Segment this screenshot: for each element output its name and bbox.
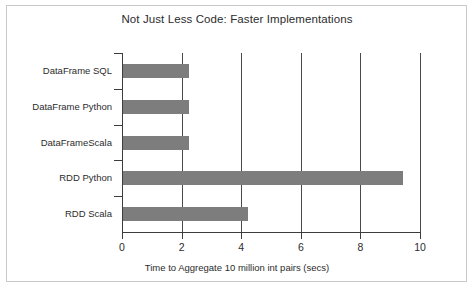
category-label-dataframe-python: DataFrame Python (2, 101, 112, 112)
bar-dataframe-sql (123, 64, 189, 78)
x-tick-0 (122, 233, 123, 239)
x-tick-8 (360, 233, 361, 239)
x-tick-2 (182, 233, 183, 239)
gridline-10 (420, 53, 421, 232)
y-tick-0 (114, 53, 122, 54)
bar-rdd-scala (123, 207, 248, 221)
y-tick-2 (114, 125, 122, 126)
figure: Not Just Less Code: Faster Implementatio… (0, 0, 474, 294)
x-tick-label-10: 10 (400, 241, 440, 253)
x-tick-10 (420, 233, 421, 239)
x-axis-line (122, 232, 421, 233)
y-axis-tick-labels: DataFrame SQLDataFrame PythonDataFrameSc… (0, 0, 112, 294)
category-label-rdd-scala: RDD Scala (2, 208, 112, 219)
x-tick-label-2: 2 (162, 241, 202, 253)
x-tick-6 (301, 233, 302, 239)
x-tick-4 (241, 233, 242, 239)
y-tick-4 (114, 196, 122, 197)
y-tick-3 (114, 160, 122, 161)
category-label-dataframescala: DataFrameScala (2, 137, 112, 148)
bar-rdd-python (123, 171, 403, 185)
category-label-rdd-python: RDD Python (2, 172, 112, 183)
x-axis-title: Time to Aggregate 10 million int pairs (… (0, 262, 474, 273)
x-tick-label-4: 4 (221, 241, 261, 253)
category-label-dataframe-sql: DataFrame SQL (2, 65, 112, 76)
plot-area (122, 53, 420, 232)
bar-dataframescala (123, 136, 189, 150)
bar-dataframe-python (123, 100, 189, 114)
y-tick-1 (114, 89, 122, 90)
x-tick-label-8: 8 (340, 241, 380, 253)
x-tick-label-6: 6 (281, 241, 321, 253)
x-tick-label-0: 0 (102, 241, 142, 253)
